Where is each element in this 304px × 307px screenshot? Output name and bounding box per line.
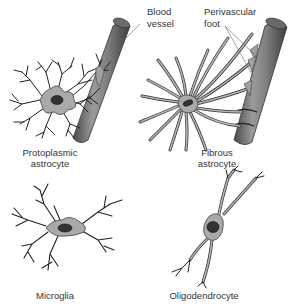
oligodendrocyte-nucleus xyxy=(207,222,219,233)
microglia xyxy=(12,184,122,270)
diagram-canvas: Blood vessel Perivascular foot Protoplas… xyxy=(0,0,304,307)
label-fibrous-astrocyte-line2: astrocyte xyxy=(198,158,237,169)
label-blood-vessel-line1: Blood xyxy=(147,6,171,17)
label-oligodendrocyte: Oligodendrocyte xyxy=(169,290,238,301)
protoplasmic-nucleus xyxy=(51,96,63,105)
label-microglia: Microglia xyxy=(36,290,75,301)
neuroglia-diagram: Blood vessel Perivascular foot Protoplas… xyxy=(0,0,304,307)
label-perivascular-foot-line1: Perivascular xyxy=(204,6,256,17)
label-blood-vessel-line2: vessel xyxy=(147,18,174,29)
label-fibrous-astrocyte-line1: Fibrous xyxy=(201,147,233,158)
label-perivascular-foot-line2: foot xyxy=(204,18,220,29)
label-protoplasmic-astrocyte-line1: Protoplasmic xyxy=(23,147,78,158)
label-protoplasmic-astrocyte-line2: astrocyte xyxy=(31,158,70,169)
oligodendrocyte xyxy=(172,166,264,288)
microglia-nucleus xyxy=(58,224,72,232)
blood-vessel-right xyxy=(234,16,287,145)
